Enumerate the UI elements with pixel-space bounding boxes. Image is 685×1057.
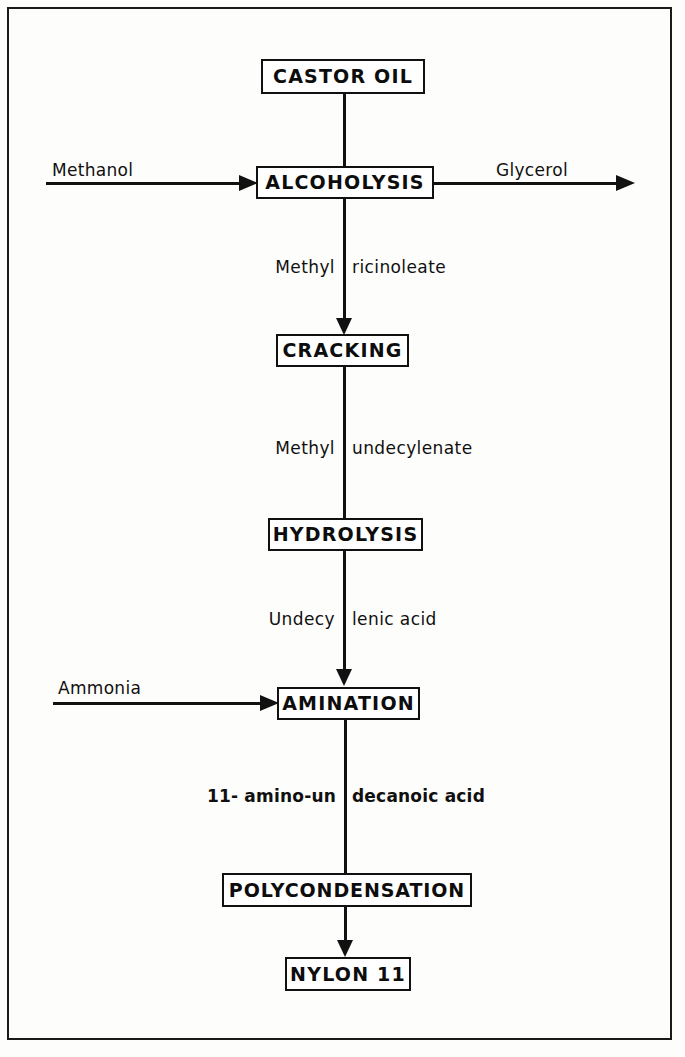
- node-polycondensation[interactable]: POLYCONDENSATION: [222, 873, 472, 907]
- connector-cracking-to-hydrolysis: [343, 367, 346, 518]
- node-alcoholysis[interactable]: ALCOHOLYSIS: [256, 166, 434, 199]
- node-polycondensation-label: POLYCONDENSATION: [229, 881, 465, 900]
- intermediate-methyl-undecylenate-right: undecylenate: [352, 440, 473, 457]
- connector-castor-oil-to-alcoholysis: [343, 94, 346, 167]
- output-glycerol-label: Glycerol: [496, 162, 568, 179]
- node-hydrolysis-label: HYDROLYSIS: [273, 525, 419, 544]
- node-castor-oil-label: CASTOR OIL: [273, 67, 413, 86]
- node-hydrolysis[interactable]: HYDROLYSIS: [268, 518, 423, 551]
- node-amination-label: AMINATION: [282, 694, 415, 713]
- node-castor-oil[interactable]: CASTOR OIL: [261, 59, 425, 94]
- node-cracking-label: CRACKING: [282, 341, 402, 360]
- arrowhead-nylon-11: [337, 940, 353, 957]
- connector-methanol-to-alcoholysis: [46, 182, 247, 185]
- intermediate-methyl-ricinoleate-right: ricinoleate: [352, 259, 446, 276]
- intermediate-amino-undecanoic-acid-left: 11- amino-un: [170, 788, 336, 805]
- connector-amination-to-polycondensation: [344, 720, 347, 873]
- intermediate-methyl-ricinoleate-left: Methyl: [188, 259, 335, 276]
- node-amination[interactable]: AMINATION: [277, 687, 420, 720]
- arrowhead-cracking: [336, 318, 352, 335]
- connector-ammonia-to-amination: [53, 702, 268, 705]
- arrowhead-amination: [336, 669, 352, 686]
- intermediate-undecylenic-acid-right: lenic acid: [352, 611, 437, 628]
- connector-alcoholysis-to-glycerol: [434, 182, 622, 185]
- connector-hydrolysis-to-amination: [343, 551, 346, 671]
- node-cracking[interactable]: CRACKING: [276, 334, 409, 367]
- node-nylon-11[interactable]: NYLON 11: [285, 957, 411, 991]
- input-methanol-label: Methanol: [52, 162, 133, 179]
- diagram-canvas: CASTOR OIL Methanol ALCOHOLYSIS Glycerol…: [0, 0, 685, 1057]
- arrowhead-glycerol: [616, 175, 635, 191]
- intermediate-amino-undecanoic-acid-right: decanoic acid: [352, 788, 485, 805]
- intermediate-undecylenic-acid-left: Undecy: [205, 611, 335, 628]
- intermediate-methyl-undecylenate-left: Methyl: [180, 440, 335, 457]
- node-nylon-11-label: NYLON 11: [290, 965, 406, 984]
- node-alcoholysis-label: ALCOHOLYSIS: [265, 173, 425, 192]
- connector-alcoholysis-to-cracking: [343, 199, 346, 321]
- input-ammonia-label: Ammonia: [58, 680, 141, 697]
